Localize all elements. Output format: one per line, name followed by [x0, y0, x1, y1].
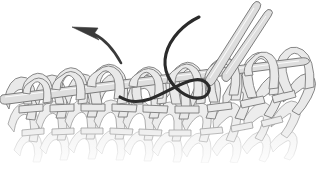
- knitting-illustration-figure: Knitting stitch technique illustration G…: [0, 0, 319, 173]
- illustration-canvas: [0, 0, 319, 173]
- bottom-white-strip: [0, 163, 319, 173]
